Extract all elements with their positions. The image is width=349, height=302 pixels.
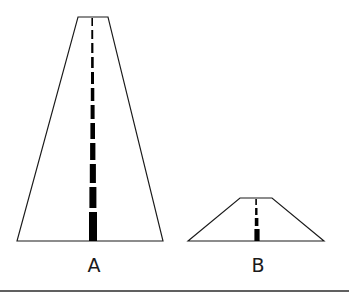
lane-dash-segment bbox=[89, 187, 96, 208]
road-shape-b-group: B bbox=[188, 198, 324, 276]
road-comparison-diagram: A B bbox=[0, 0, 349, 302]
figure-canvas: A B bbox=[0, 0, 349, 302]
lane-dash-segment bbox=[91, 88, 95, 101]
lane-dash-segment bbox=[91, 18, 93, 26]
lane-dash-segment bbox=[91, 43, 93, 53]
road-b-label: B bbox=[251, 254, 264, 276]
road-a-label: A bbox=[88, 254, 101, 276]
lane-dash-segment bbox=[90, 164, 96, 183]
lane-dash-segment bbox=[89, 212, 97, 241]
lane-dash-segment bbox=[255, 208, 257, 215]
lane-dash-segment bbox=[91, 105, 95, 119]
lane-dash-segment bbox=[91, 72, 94, 84]
lane-dash-segment bbox=[255, 218, 259, 226]
road-shape-a-group: A bbox=[17, 17, 163, 276]
lane-dash-segment bbox=[91, 30, 93, 39]
lane-dash-segment bbox=[90, 143, 95, 160]
lane-dash-segment bbox=[254, 229, 259, 241]
lane-dash-segment bbox=[91, 57, 94, 68]
lane-dash-segment bbox=[255, 199, 257, 205]
lane-dash-segment bbox=[90, 123, 95, 139]
